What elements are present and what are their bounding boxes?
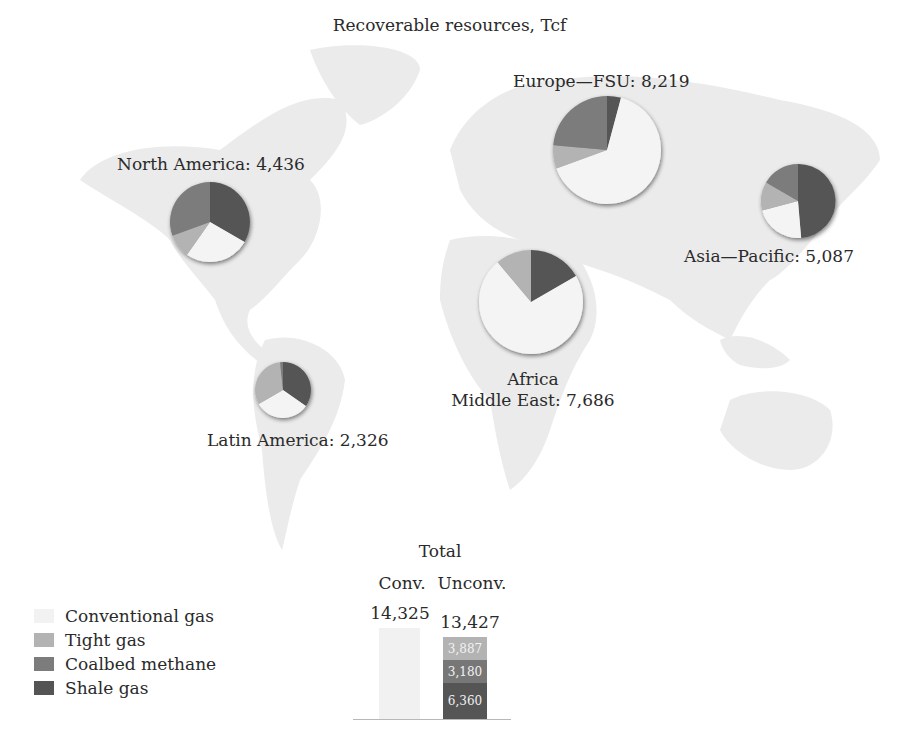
label-asia-pacific: Asia—Pacific: 5,087: [684, 246, 854, 267]
bar-seg-tight: 3,887: [443, 637, 487, 660]
legend-item-coalbed: Coalbed methane: [34, 652, 216, 676]
bar-conventional: [379, 628, 420, 719]
legend-label: Shale gas: [65, 678, 148, 698]
unconv-total-value: 13,427: [430, 612, 510, 632]
legend-item-shale: Shale gas: [34, 676, 216, 700]
unconv-label: Unconv.: [437, 573, 507, 593]
swatch-shale: [34, 681, 54, 695]
label-africa-middle-east: Africa Middle East: 7,686: [445, 369, 621, 412]
label-africa-line2: Middle East: 7,686: [445, 390, 621, 411]
conv-label: Conv.: [372, 573, 432, 593]
swatch-tight: [34, 633, 54, 647]
pie-europe-fsu: [553, 96, 661, 204]
legend-label: Conventional gas: [65, 606, 214, 626]
bar-seg-shale: 6,360: [443, 683, 487, 719]
pie-africa-middle-east: [479, 250, 583, 354]
label-latin-america: Latin America: 2,326: [207, 430, 389, 451]
legend-item-conventional: Conventional gas: [34, 604, 216, 628]
swatch-conventional: [34, 609, 54, 623]
legend-label: Tight gas: [65, 630, 146, 650]
pie-asia-pacific: [761, 164, 836, 238]
bar-unconventional: 3,887 3,180 6,360: [443, 637, 487, 719]
totals-title: Total: [380, 541, 500, 561]
legend-label: Coalbed methane: [65, 654, 216, 674]
pie-latin-america: [255, 362, 311, 418]
bar-seg-coalbed: 3,180: [443, 660, 487, 683]
swatch-coalbed: [34, 657, 54, 671]
pie-north-america: [170, 182, 250, 262]
legend: Conventional gas Tight gas Coalbed metha…: [34, 604, 216, 700]
legend-item-tight: Tight gas: [34, 628, 216, 652]
label-europe-fsu: Europe—FSU: 8,219: [513, 71, 690, 92]
label-africa-line1: Africa: [445, 369, 621, 390]
conv-total-value: 14,325: [360, 603, 440, 623]
world-map: [0, 0, 899, 560]
label-north-america: North America: 4,436: [117, 154, 305, 175]
baseline: [353, 719, 511, 720]
